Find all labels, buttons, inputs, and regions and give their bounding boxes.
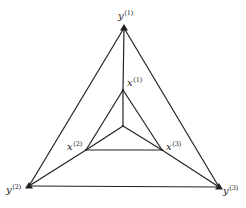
edge-y2-y3	[29, 186, 219, 187]
node-dot-center	[122, 125, 124, 127]
label-superscript: (3)	[229, 184, 239, 192]
edge-x3-y3	[162, 150, 219, 187]
edge-center-x2	[86, 126, 123, 150]
label-base: x	[67, 141, 73, 152]
node-dot-x3	[161, 149, 163, 151]
label-superscript: (1)	[133, 76, 143, 84]
edge-x3-x1	[123, 90, 162, 150]
diagram-canvas: y(1)y(2)y(3)x(1)x(2)x(3)	[0, 0, 246, 208]
label-x3: x(3)	[166, 140, 182, 152]
label-superscript: (1)	[124, 9, 134, 17]
label-base: x	[166, 141, 172, 152]
label-base: y	[222, 185, 229, 196]
edge-x2-y2	[29, 150, 86, 186]
label-y2: y(2)	[5, 183, 22, 195]
label-base: y	[5, 184, 12, 195]
label-y1: y(1)	[117, 9, 134, 21]
label-base: y	[117, 10, 124, 21]
edge-y1-y2	[29, 28, 124, 186]
vertex-marker-y3	[215, 183, 223, 189]
vertex-marker-y2	[25, 182, 33, 188]
label-superscript: (2)	[73, 140, 83, 148]
edge-center-x3	[123, 126, 162, 150]
node-dot-x1	[122, 89, 124, 91]
label-y3: y(3)	[222, 184, 239, 196]
node-dot-x2	[85, 149, 87, 151]
label-base: x	[127, 77, 133, 88]
label-x1: x(1)	[127, 76, 143, 88]
edges	[29, 28, 219, 187]
vertex-marker-y1	[120, 24, 128, 30]
edge-x1-x2	[86, 90, 123, 150]
label-superscript: (3)	[172, 140, 182, 148]
label-superscript: (2)	[12, 183, 22, 191]
label-x2: x(2)	[67, 140, 83, 152]
edge-x1-y1	[123, 28, 124, 90]
edge-y3-y1	[124, 28, 219, 187]
